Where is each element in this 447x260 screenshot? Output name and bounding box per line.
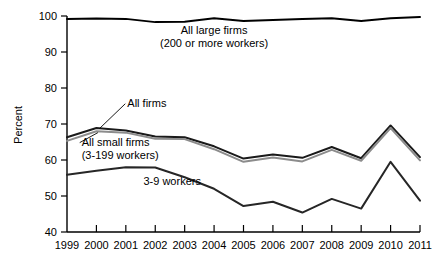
x-axis-tick-label: 2005 xyxy=(231,239,255,251)
annotation-label-three-to-nine-workers: 3-9 workers xyxy=(143,175,201,187)
x-axis-tick-label: 2003 xyxy=(172,239,196,251)
x-axis-tick-label: 2011 xyxy=(408,239,432,251)
annotation-label-all-small-firms: All small firms xyxy=(82,136,150,148)
x-axis-tick-label: 2004 xyxy=(202,239,226,251)
x-axis-tick-label: 2000 xyxy=(84,239,108,251)
y-axis-tick-label: 80 xyxy=(45,82,57,94)
annotation-label-all-small-firms: (3-199 workers) xyxy=(82,149,159,161)
y-axis-tick-label: 60 xyxy=(45,154,57,166)
y-axis-tick-label: 40 xyxy=(45,226,57,238)
x-axis-tick-label: 2007 xyxy=(290,239,314,251)
y-axis-title: Percent xyxy=(12,106,24,144)
x-axis-tick-label: 2010 xyxy=(378,239,402,251)
series-line xyxy=(67,162,420,213)
y-axis-tick-label: 50 xyxy=(45,190,57,202)
y-axis-tick-label: 90 xyxy=(45,46,57,58)
x-axis-tick-label: 2001 xyxy=(114,239,138,251)
x-axis-tick-label: 1999 xyxy=(55,239,79,251)
x-axis-tick-label: 2009 xyxy=(349,239,373,251)
line-chart: 4050607080901001999200020012002200320042… xyxy=(0,0,447,260)
x-axis-tick-label: 2002 xyxy=(143,239,167,251)
chart-container: 4050607080901001999200020012002200320042… xyxy=(0,0,447,260)
x-axis-tick-label: 2006 xyxy=(261,239,285,251)
x-axis-tick-label: 2008 xyxy=(320,239,344,251)
chart-annotations-layer: All large firms(200 or more workers)All … xyxy=(80,24,268,187)
y-axis-tick-label: 100 xyxy=(39,10,57,22)
annotation-label-all-large-firms: All large firms xyxy=(181,24,248,36)
annotation-leader-line xyxy=(99,104,125,129)
series-line xyxy=(67,17,420,22)
y-axis-tick-label: 70 xyxy=(45,118,57,130)
annotation-label-all-large-firms: (200 or more workers) xyxy=(160,37,268,49)
annotation-label-all-firms: All firms xyxy=(127,97,167,109)
